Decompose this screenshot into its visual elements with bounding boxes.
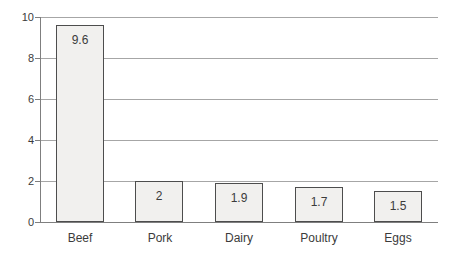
x-tick-label-eggs: Eggs <box>358 231 438 246</box>
y-tick-label-4: 4 <box>8 133 34 147</box>
bar-chart: 0246810 9.621.91.71.5 BeefPorkDairyPoult… <box>0 0 454 256</box>
x-tick-label-poultry: Poultry <box>279 231 359 246</box>
bar-poultry: 1.7 <box>295 187 343 222</box>
y-tick-label-8: 8 <box>8 51 34 65</box>
y-tick-mark-0 <box>35 222 40 223</box>
bar-beef: 9.6 <box>56 25 104 222</box>
y-tick-mark-10 <box>35 17 40 18</box>
y-tick-label-0: 0 <box>8 215 34 229</box>
bar-value-label-dairy: 1.9 <box>216 191 262 205</box>
x-tick-label-pork: Pork <box>120 231 200 246</box>
y-tick-label-6: 6 <box>8 92 34 106</box>
bar-value-label-poultry: 1.7 <box>296 195 342 209</box>
y-tick-label-2: 2 <box>8 174 34 188</box>
bar-value-label-beef: 9.6 <box>57 33 103 47</box>
gridline-10 <box>40 17 438 18</box>
x-tick-label-beef: Beef <box>40 231 120 246</box>
y-tick-mark-8 <box>35 58 40 59</box>
x-axis-baseline <box>40 222 438 223</box>
y-tick-mark-2 <box>35 181 40 182</box>
y-tick-label-10: 10 <box>8 10 34 24</box>
y-axis-line <box>40 17 41 222</box>
bar-value-label-pork: 2 <box>136 189 182 203</box>
bar-eggs: 1.5 <box>374 191 422 222</box>
y-tick-mark-6 <box>35 99 40 100</box>
bar-dairy: 1.9 <box>215 183 263 222</box>
y-tick-mark-4 <box>35 140 40 141</box>
x-tick-label-dairy: Dairy <box>199 231 279 246</box>
bar-pork: 2 <box>135 181 183 222</box>
bar-value-label-eggs: 1.5 <box>375 199 421 213</box>
